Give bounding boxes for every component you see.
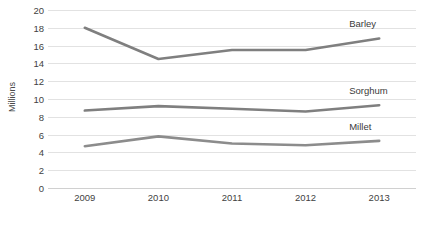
x-axis-tick-labels: 20092010201120122013 — [48, 192, 416, 212]
plot-area — [48, 10, 416, 188]
series-line-barley — [85, 28, 379, 59]
y-axis-tick-label: 20 — [20, 5, 44, 16]
y-axis-tick-label: 8 — [20, 111, 44, 122]
y-axis-title: Millions — [7, 61, 17, 133]
gridline — [48, 188, 416, 189]
y-axis-tick-labels: 20181614121086420 — [20, 10, 44, 188]
y-axis-tick-label: 2 — [20, 165, 44, 176]
series-line-millet — [85, 136, 379, 146]
x-axis-tick-label: 2013 — [349, 192, 409, 203]
x-axis-tick-label: 2012 — [276, 192, 336, 203]
y-axis-tick-label: 0 — [20, 183, 44, 194]
y-axis-tick-label: 18 — [20, 22, 44, 33]
series-label-millet: Millet — [349, 121, 371, 132]
x-axis-tick-label: 2010 — [128, 192, 188, 203]
series-label-barley: Barley — [349, 18, 376, 29]
series-lines — [48, 10, 416, 188]
y-axis-tick-label: 10 — [20, 94, 44, 105]
y-axis-tick-label: 16 — [20, 40, 44, 51]
series-line-sorghum — [85, 105, 379, 111]
y-axis-tick-label: 12 — [20, 76, 44, 87]
y-axis-tick-label: 4 — [20, 147, 44, 158]
y-axis-tick-label: 6 — [20, 129, 44, 140]
x-axis-tick-label: 2011 — [202, 192, 262, 203]
x-axis-tick-label: 2009 — [55, 192, 115, 203]
series-label-sorghum: Sorghum — [349, 85, 388, 96]
line-chart: Millions 20181614121086420 2009201020112… — [0, 0, 429, 228]
y-axis-tick-label: 14 — [20, 58, 44, 69]
